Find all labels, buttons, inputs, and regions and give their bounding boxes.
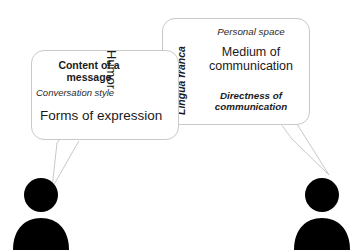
left-person-body-icon xyxy=(13,218,69,250)
left-label-humor: Humor xyxy=(103,50,118,110)
right-label-personal-space: Personal space xyxy=(199,27,303,38)
person-silhouette-left xyxy=(13,178,69,250)
left-label-content-of-a-message: Content of a message xyxy=(43,60,135,84)
left-label-conversation-style: Conversation style xyxy=(36,88,114,99)
right-person-head-icon xyxy=(305,178,339,212)
right-label-medium-of-communication: Medium of communication xyxy=(195,45,307,73)
right-bubble-tail xyxy=(281,124,329,175)
diagram-canvas: Content of a message Conversation style … xyxy=(0,0,362,252)
left-label-forms-of-expression: Forms of expression xyxy=(40,108,162,123)
person-silhouette-right xyxy=(294,178,350,250)
left-bubble-tail xyxy=(52,139,80,188)
right-person-body-icon xyxy=(294,218,350,250)
right-label-directness-of-communication: Directness of communication xyxy=(197,91,305,113)
left-person-head-icon xyxy=(24,178,58,212)
